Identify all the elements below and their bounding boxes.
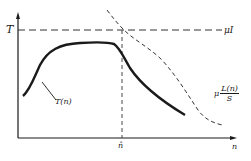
x-axis-arrow-icon: [230, 136, 237, 140]
n-hat-label: n̂: [118, 141, 123, 150]
fraction-denominator: S: [227, 94, 232, 103]
diagram-canvas: [0, 0, 251, 161]
curve-T-of-n: [23, 42, 185, 115]
T-of-n-label: T(n): [55, 97, 72, 106]
x-axis-label: n: [232, 142, 237, 151]
mu-prefix: μ: [214, 89, 219, 98]
mu-L-over-S-label: μ L(n) S: [214, 84, 239, 103]
y-axis-arrow-icon: [16, 12, 20, 19]
curve-mu-L-over-S: [107, 10, 222, 125]
T-of-n-leader-line: [42, 82, 56, 100]
fraction-numerator: L(n): [220, 84, 239, 94]
y-axis-label: T: [6, 23, 13, 36]
axes: [16, 12, 237, 140]
threshold-label: μI: [224, 25, 233, 35]
fraction: L(n) S: [220, 84, 239, 103]
